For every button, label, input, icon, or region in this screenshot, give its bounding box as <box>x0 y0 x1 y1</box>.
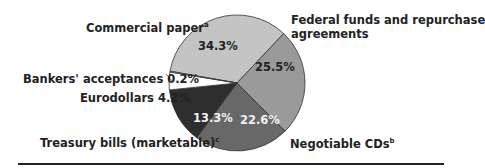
label-bankers-acceptances: Bankers' acceptances 0.2% <box>23 72 199 86</box>
label-commercial-paper: Commercial papera <box>86 18 209 35</box>
pct-commercial-paper: 34.3% <box>198 39 238 53</box>
label-eurodollars: Eurodollars 4.2% <box>80 91 190 105</box>
label-negotiable-cds: Negotiable CDsb <box>290 134 395 151</box>
label-treasury-bills: Treasury bills (marketable)c <box>40 133 219 150</box>
pct-treasury-bills: 13.3% <box>193 111 233 125</box>
pct-federal-funds: 25.5% <box>255 60 295 74</box>
label-federal-funds: Federal funds and repurchaseagreements <box>291 13 485 41</box>
pct-negotiable-cds: 22.6% <box>240 113 280 127</box>
bottom-rule <box>18 163 444 165</box>
